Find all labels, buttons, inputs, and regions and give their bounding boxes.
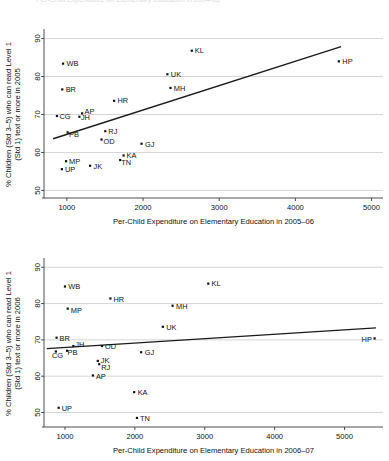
data-point-cg [56,115,58,117]
data-point-label-pb: PB [69,130,79,139]
data-point-rj [104,130,106,132]
data-point-mh [172,305,174,307]
figure-page: Per-Child Expenditure on Elementary Educ… [0,0,389,461]
y-tick-label: 60 [33,372,42,380]
data-point-label-mp: MP [71,306,82,315]
data-point-label-gj: GJ [145,348,155,357]
data-point-label-gj: GJ [145,140,155,149]
x-tick-label: 2000 [135,203,152,212]
data-point-kl [191,50,193,52]
data-point-label-cg: CG [52,351,63,360]
data-point-label-wb: WB [68,282,80,291]
data-point-jk [97,360,99,362]
data-point-label-jh: JH [81,113,90,122]
data-point-wb [64,285,66,287]
data-point-ka [133,391,135,393]
data-point-label-wb: WB [66,59,78,68]
data-point-label-rj: RJ [101,363,110,372]
y-tick-label: 80 [33,299,42,307]
data-point-label-mh: MH [174,84,186,93]
x-axis-title: Per-Child Expenditure on Elementary Educ… [113,446,314,455]
data-point-kl [207,282,209,284]
data-point-gj [140,351,142,353]
data-point-up [58,407,60,409]
data-point-label-od: OD [105,342,116,351]
data-point-label-jk: JK [94,162,103,171]
data-point-label-uk: UK [171,70,181,79]
data-point-label-hp: HP [362,335,372,344]
y-axis-title-line-2: (Std 1) text or more in 2006 [13,297,22,389]
x-tick-label: 1000 [57,432,74,441]
x-axis-title: Per-Child Expenditure on Elementary Educ… [113,217,314,226]
chart-top-canvas: 506070809010002000300040005000Per-Child … [0,0,389,230]
data-point-label-br: BR [66,85,76,94]
data-point-uk [162,326,164,328]
chart-bottom-canvas: 506070809010002000300040005000Per-Child … [0,230,389,461]
x-tick-label: 4000 [287,203,304,212]
data-point-uk [166,73,168,75]
x-tick-label: 3000 [196,432,213,441]
data-point-hp [338,60,340,62]
data-point-label-tn: TN [121,158,131,167]
data-point-label-mh: MH [176,302,188,311]
data-point-gj [140,143,142,145]
data-point-rj [98,363,100,365]
data-point-hr [113,100,115,102]
y-tick-label: 50 [33,408,42,416]
data-point-br [55,337,57,339]
data-point-jh [72,345,74,347]
x-tick-label: 1000 [58,203,75,212]
data-point-label-kl: KL [211,279,220,288]
x-tick-label: 2000 [126,432,143,441]
data-point-mp [67,308,69,310]
data-point-od [101,345,103,347]
y-tick-label: 90 [33,34,42,42]
data-point-hr [109,297,111,299]
data-point-od [100,138,102,140]
data-point-label-hr: HR [117,96,128,105]
scatter-chart-2005: 506070809010002000300040005000Per-Child … [0,0,389,230]
data-point-hp [374,337,376,339]
data-point-label-uk: UK [166,323,176,332]
data-point-mp [65,160,67,162]
data-point-wb [62,63,64,65]
data-point-label-up: UP [62,404,72,413]
data-point-label-rj: RJ [108,127,117,136]
data-point-up [61,168,63,170]
y-tick-label: 60 [33,148,42,156]
data-point-label-kl: KL [195,46,204,55]
data-point-jk [89,165,91,167]
y-tick-label: 50 [33,186,42,194]
y-tick-label: 70 [33,336,42,344]
data-point-label-pb: PB [68,348,78,357]
data-point-label-br: BR [60,334,70,343]
data-point-label-up: UP [65,165,75,174]
data-point-tn [136,417,138,419]
x-tick-label: 4000 [266,432,283,441]
data-point-label-ap: AP [96,372,106,381]
data-point-label-tn: TN [140,414,150,423]
data-point-mh [169,87,171,89]
scatter-chart-2006: 506070809010002000300040005000Per-Child … [0,230,389,461]
x-tick-label: 5000 [336,432,353,441]
x-tick-label: 3000 [211,203,228,212]
regression-fit-line [47,328,376,349]
data-point-label-ka: KA [138,388,148,397]
data-point-label-hr: HR [113,295,124,304]
data-point-label-od: OD [104,137,115,146]
data-point-label-hp: HP [342,57,352,66]
data-point-ap [92,374,94,376]
x-tick-label: 5000 [363,203,380,212]
data-point-label-cg: CG [59,112,70,121]
data-point-br [61,88,63,90]
y-axis-title-line-1: % Children (Std 3–5) who can read Level … [4,271,13,416]
y-axis-title-line-2: (Std 1) text or more in 2005 [13,68,22,160]
data-point-ka [123,154,125,156]
y-axis-title-line-1: % Children (Std 3–5) who can read Level … [4,42,13,187]
y-tick-label: 70 [33,110,42,118]
y-tick-label: 80 [33,72,42,80]
regression-fit-line [53,47,341,139]
y-tick-label: 90 [33,263,42,271]
